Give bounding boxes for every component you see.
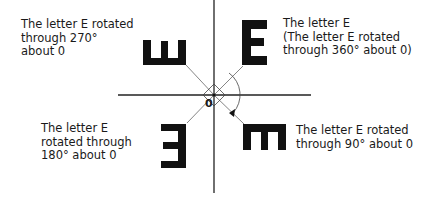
caption-line: (The letter E rotated [283,31,412,45]
diagonal-line-270 [186,65,214,95]
caption-line: rotated through [41,136,132,150]
caption-line: about 0 [21,45,134,59]
caption-line: 180° about 0 [41,149,132,163]
letter-e-90 [243,124,286,150]
letter-e-180 [161,124,186,168]
letter-e-360 [242,20,267,65]
origin-label: 0 [205,97,213,110]
caption-line: The letter E [41,122,132,136]
caption-line: The letter E rotated [296,124,413,138]
letter-e-270 [143,40,186,65]
caption-line: through 90° about 0 [296,138,413,152]
caption-rotated-270: The letter E rotated through 270° about … [21,18,134,59]
caption-rotated-360: The letter E (The letter E rotated throu… [283,17,412,58]
caption-rotated-90: The letter E rotated through 90° about 0 [296,124,413,151]
caption-line: through 270° [21,32,134,46]
diagonal-line-360 [214,66,243,95]
rotation-arc [229,73,240,113]
caption-line: through 360° about 0) [283,44,412,58]
caption-line: The letter E [283,17,412,31]
caption-line: The letter E rotated [21,18,134,32]
caption-rotated-180: The letter E rotated through 180° about … [41,122,132,163]
